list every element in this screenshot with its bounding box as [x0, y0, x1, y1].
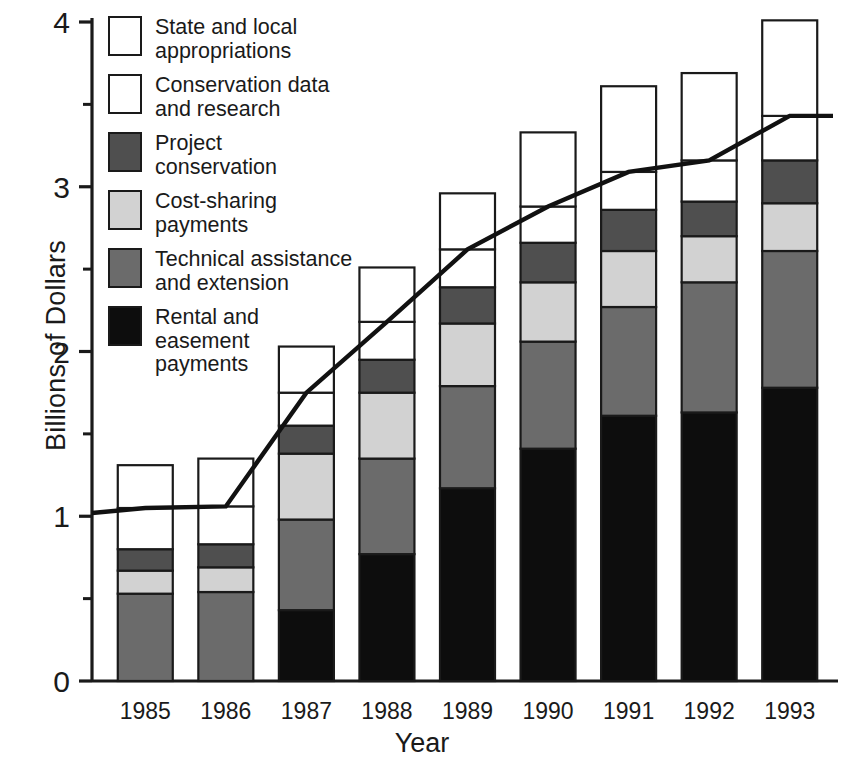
bar-segment-1991-rental-and-easement-payments: [601, 416, 656, 681]
x-tick-label-1989: 1989: [442, 698, 493, 724]
bar-segment-1992-conservation-data-and-research: [682, 160, 737, 201]
bar-segment-1991-cost-sharing-payments: [601, 251, 656, 307]
legend-swatch-project-conservation: [108, 132, 142, 172]
bar-segment-1986-conservation-data-and-research: [198, 506, 253, 544]
bar-group-1991: [601, 86, 656, 681]
bar-segment-1990-conservation-data-and-research: [521, 207, 576, 243]
bar-segment-1985-technical-assistance-and-extension: [118, 594, 173, 681]
bar-segment-1985-cost-sharing-payments: [118, 571, 173, 594]
bar-group-1986: [198, 459, 253, 681]
x-tick-label-1988: 1988: [361, 698, 412, 724]
x-tick-label-1992: 1992: [684, 698, 735, 724]
bar-segment-1987-rental-and-easement-payments: [279, 610, 334, 681]
chart-legend: State and local appropriationsConservati…: [108, 16, 352, 388]
bar-segment-1988-technical-assistance-and-extension: [359, 459, 414, 555]
bar-segment-1986-technical-assistance-and-extension: [198, 592, 253, 681]
legend-item-cost-sharing-payments: Cost-sharing payments: [108, 190, 352, 237]
legend-label-conservation-data-and-research: Conservation data and research: [155, 74, 330, 121]
y-axis-label: Billions of Dollars: [41, 196, 72, 496]
bar-segment-1993-rental-and-easement-payments: [762, 388, 817, 681]
bar-segment-1988-project-conservation: [359, 360, 414, 393]
x-tick-label-1985: 1985: [120, 698, 171, 724]
bar-segment-1988-rental-and-easement-payments: [359, 554, 414, 681]
legend-swatch-rental-and-easement-payments: [108, 306, 142, 346]
bar-segment-1993-state-and-local-appropriations: [762, 20, 817, 116]
bar-group-1988: [359, 267, 414, 681]
bar-segment-1985-state-and-local-appropriations: [118, 465, 173, 508]
bar-group-1987: [279, 347, 334, 681]
y-tick-label-4: 4: [53, 6, 70, 39]
legend-item-project-conservation: Project conservation: [108, 132, 352, 179]
y-tick-label-0: 0: [53, 665, 70, 698]
bar-segment-1988-state-and-local-appropriations: [359, 267, 414, 321]
bar-segment-1990-project-conservation: [521, 243, 576, 283]
bar-segment-1991-state-and-local-appropriations: [601, 86, 656, 172]
bar-segment-1985-conservation-data-and-research: [118, 508, 173, 549]
legend-label-state-and-local-appropriations: State and local appropriations: [155, 16, 297, 63]
x-tick-label-1993: 1993: [764, 698, 815, 724]
legend-label-rental-and-easement-payments: Rental and easement payments: [155, 306, 259, 377]
bar-segment-1991-project-conservation: [601, 210, 656, 251]
bar-segment-1987-cost-sharing-payments: [279, 454, 334, 520]
bar-segment-1990-technical-assistance-and-extension: [521, 342, 576, 449]
bar-segment-1989-project-conservation: [440, 287, 495, 323]
x-tick-label-1987: 1987: [281, 698, 332, 724]
legend-item-state-and-local-appropriations: State and local appropriations: [108, 16, 352, 63]
bar-segment-1987-technical-assistance-and-extension: [279, 520, 334, 611]
bar-segment-1992-rental-and-easement-payments: [682, 412, 737, 681]
legend-swatch-cost-sharing-payments: [108, 190, 142, 230]
bar-group-1985: [118, 465, 173, 681]
legend-item-conservation-data-and-research: Conservation data and research: [108, 74, 352, 121]
y-tick-label-1: 1: [53, 500, 70, 533]
bar-segment-1989-rental-and-easement-payments: [440, 488, 495, 681]
bar-segment-1993-conservation-data-and-research: [762, 116, 817, 160]
bar-group-1993: [762, 20, 817, 681]
bar-segment-1986-project-conservation: [198, 544, 253, 567]
legend-label-cost-sharing-payments: Cost-sharing payments: [155, 190, 277, 237]
bar-segment-1993-technical-assistance-and-extension: [762, 251, 817, 388]
bar-segment-1991-conservation-data-and-research: [601, 172, 656, 210]
legend-label-technical-assistance-and-extension: Technical assistance and extension: [155, 248, 352, 295]
bar-segment-1987-project-conservation: [279, 426, 334, 454]
bar-segment-1992-cost-sharing-payments: [682, 236, 737, 282]
legend-item-rental-and-easement-payments: Rental and easement payments: [108, 306, 352, 377]
x-tick-label-1991: 1991: [603, 698, 654, 724]
legend-item-technical-assistance-and-extension: Technical assistance and extension: [108, 248, 352, 295]
bar-segment-1986-cost-sharing-payments: [198, 567, 253, 592]
x-tick-label-1990: 1990: [522, 698, 573, 724]
x-axis-label: Year: [0, 728, 844, 759]
bar-segment-1988-cost-sharing-payments: [359, 393, 414, 459]
bar-segment-1990-cost-sharing-payments: [521, 282, 576, 341]
bar-segment-1992-project-conservation: [682, 202, 737, 237]
bar-segment-1990-rental-and-easement-payments: [521, 449, 576, 681]
bar-segment-1985-project-conservation: [118, 549, 173, 570]
legend-swatch-state-and-local-appropriations: [108, 16, 142, 56]
bar-segment-1989-technical-assistance-and-extension: [440, 386, 495, 488]
legend-label-project-conservation: Project conservation: [155, 132, 277, 179]
legend-swatch-technical-assistance-and-extension: [108, 248, 142, 288]
bar-segment-1991-technical-assistance-and-extension: [601, 307, 656, 416]
legend-swatch-conservation-data-and-research: [108, 74, 142, 114]
bar-segment-1990-state-and-local-appropriations: [521, 132, 576, 206]
bar-segment-1993-project-conservation: [762, 160, 817, 203]
bar-segment-1992-technical-assistance-and-extension: [682, 282, 737, 412]
bar-segment-1989-cost-sharing-payments: [440, 323, 495, 386]
bar-segment-1993-cost-sharing-payments: [762, 203, 817, 251]
x-tick-label-1986: 1986: [200, 698, 251, 724]
